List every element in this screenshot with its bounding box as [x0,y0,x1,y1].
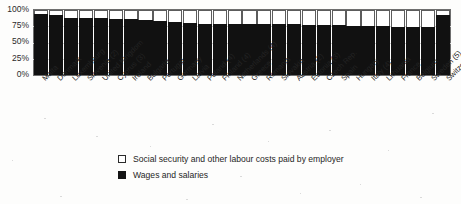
bar-segment-social-security [346,10,360,26]
bar-segment-social-security [421,10,435,27]
bar-segment-social-security [138,10,152,20]
bar-segment-social-security [376,10,390,26]
bar-segment-social-security [391,10,405,27]
chart-figure: 100% 75% 50% 25% 0% MaltaDenmarkLuxembou… [0,0,461,204]
bar-segment-social-security [302,10,316,25]
bar-segment-social-security [94,10,108,18]
legend-swatch-filled-square-icon [118,171,126,179]
bar-segment-social-security [257,10,271,24]
bar-segment-social-security [361,10,375,26]
bar-segment-social-security [317,10,331,25]
bar-segment-social-security [287,10,301,24]
y-tick-label: 75% [12,21,29,30]
bar-segment-social-security [242,10,256,24]
bar-segment-social-security [153,10,167,21]
bar-segment-social-security [213,10,227,24]
x-axis-labels: MaltaDenmarkLuxembourgSlovenia (2)United… [33,77,451,139]
bar-segment-social-security [109,10,123,19]
legend-item-social-security: Social security and other labour costs p… [118,152,418,165]
bar-segment-social-security [168,10,182,22]
bar-segment-social-security [79,10,93,18]
bar-segment-social-security [183,10,197,23]
legend-swatch-open-square-icon [118,155,126,163]
y-tick-label: 50% [12,37,29,46]
bar-segment-social-security [198,10,212,24]
bar-column [34,10,48,75]
y-tick-label: 100% [7,5,29,14]
legend-item-wages-and-salaries: Wages and salaries [118,168,418,181]
bar-segment-social-security [406,10,420,27]
bar-segment-social-security [228,10,242,24]
bar-segment-social-security [64,10,78,18]
y-axis: 100% 75% 50% 25% 0% [0,0,31,86]
bar-segment-wages-and-salaries [34,14,48,75]
bar-segment-social-security [272,10,286,24]
legend-label: Social security and other labour costs p… [133,154,344,164]
chart-legend: Social security and other labour costs p… [118,152,418,184]
bar-segment-social-security [124,10,138,19]
legend-label: Wages and salaries [133,170,208,180]
bar-segment-social-security [332,10,346,25]
y-tick-label: 25% [12,54,29,63]
y-tick-label: 0% [17,70,29,79]
